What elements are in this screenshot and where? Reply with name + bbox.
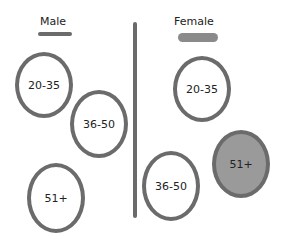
divider-line: [133, 22, 137, 218]
female-highlight: [178, 33, 218, 42]
circle-label: 20-35: [186, 83, 218, 96]
circle-label: 51+: [44, 192, 67, 205]
male-circle-36-50: 36-50: [70, 90, 128, 158]
male-circle-51-plus: 51+: [27, 163, 85, 233]
male-circle-20-35: 20-35: [15, 52, 73, 118]
male-header: Male: [40, 15, 66, 28]
female-circle-20-35: 20-35: [173, 56, 231, 122]
female-circle-36-50: 36-50: [142, 151, 200, 221]
circle-label: 51+: [229, 158, 252, 171]
female-header: Female: [174, 15, 214, 28]
female-circle-51-plus: 51+: [212, 130, 270, 198]
circle-label: 36-50: [155, 180, 187, 193]
male-underline: [38, 32, 72, 36]
circle-label: 20-35: [28, 79, 60, 92]
circle-label: 36-50: [83, 118, 115, 131]
